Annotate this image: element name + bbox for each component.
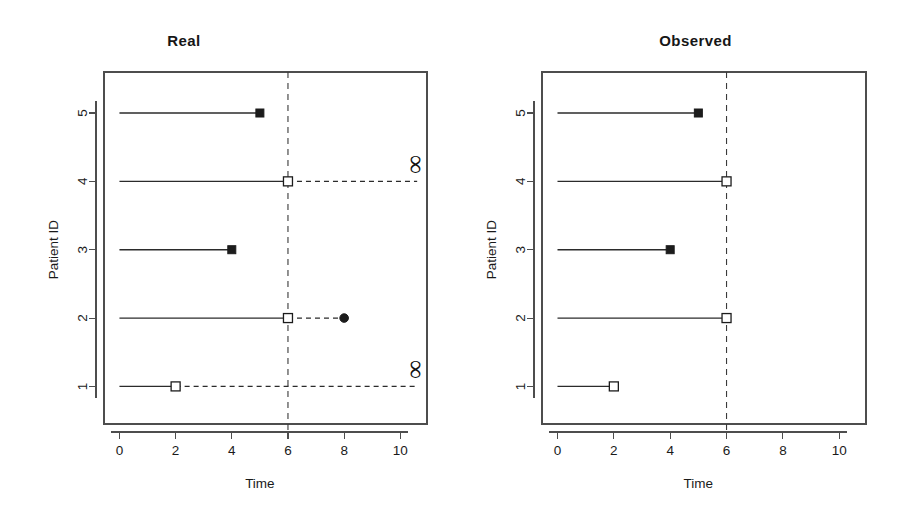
censor-marker-open-square	[722, 177, 731, 186]
panel-real: Real 0246810Time12345Patient ID∞∞	[0, 0, 460, 524]
survival-timeline-figure: Real 0246810Time12345Patient ID∞∞ Observ…	[0, 0, 901, 524]
x-axis-tick-label: 4	[228, 443, 236, 458]
plot-area-real: 0246810Time12345Patient ID∞∞	[0, 0, 460, 524]
event-marker-filled-square	[694, 109, 702, 117]
y-axis-tick-label: 2	[513, 314, 528, 322]
censor-marker-open-square	[171, 382, 180, 391]
y-axis-tick-label: 1	[513, 383, 528, 391]
infinity-symbol: ∞	[400, 360, 429, 379]
x-axis-title: Time	[245, 476, 275, 491]
subject-track-4	[557, 177, 731, 186]
x-axis-tick-label: 4	[666, 443, 674, 458]
censor-marker-open-square	[283, 314, 292, 323]
x-axis-tick-label: 6	[284, 443, 292, 458]
y-axis-tick-label: 2	[75, 314, 90, 322]
x-axis-tick-label: 8	[779, 443, 787, 458]
censor-marker-open-square	[283, 177, 292, 186]
true-event-marker-circle	[340, 314, 349, 323]
y-axis-tick-label: 1	[75, 383, 90, 391]
y-axis-title: Patient ID	[484, 220, 499, 280]
x-axis-tick-label: 10	[832, 443, 847, 458]
plot-box	[104, 72, 427, 424]
subject-track-4: ∞	[119, 155, 429, 186]
y-axis-tick-label: 3	[75, 246, 90, 254]
y-axis-tick-label: 4	[513, 177, 528, 185]
y-axis-tick-label: 5	[513, 109, 528, 117]
subject-track-1: ∞	[119, 360, 429, 391]
subject-track-2	[557, 314, 731, 323]
event-marker-filled-square	[256, 109, 264, 117]
x-axis-tick-label: 8	[340, 443, 348, 458]
event-marker-filled-square	[666, 246, 674, 254]
x-axis-tick-label: 0	[116, 443, 124, 458]
x-axis-tick-label: 2	[172, 443, 180, 458]
y-axis-tick-label: 4	[75, 177, 90, 185]
subject-track-2	[119, 314, 348, 323]
subject-track-5	[119, 109, 263, 117]
subject-track-1	[557, 382, 618, 391]
y-axis-tick-label: 3	[513, 246, 528, 254]
x-axis-tick-label: 10	[393, 443, 408, 458]
x-axis-tick-label: 2	[610, 443, 618, 458]
plot-box	[542, 72, 866, 424]
panel-observed: Observed 0246810Time12345Patient ID	[440, 0, 901, 524]
plot-area-observed: 0246810Time12345Patient ID	[440, 0, 901, 524]
x-axis-tick-label: 0	[554, 443, 562, 458]
subject-track-5	[557, 109, 702, 117]
subject-track-3	[557, 246, 674, 254]
y-axis-title: Patient ID	[46, 220, 61, 280]
subject-track-3	[119, 246, 235, 254]
event-marker-filled-square	[228, 246, 236, 254]
x-axis-title: Time	[684, 476, 714, 491]
censor-marker-open-square	[722, 314, 731, 323]
infinity-symbol: ∞	[400, 155, 429, 174]
x-axis-tick-label: 6	[723, 443, 731, 458]
censor-marker-open-square	[609, 382, 618, 391]
y-axis-tick-label: 5	[75, 109, 90, 117]
